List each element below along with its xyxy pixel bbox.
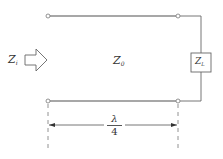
input-impedance-label: Zi: [8, 54, 18, 66]
load-impedance-label: ZL: [195, 57, 205, 67]
line-impedance-label: Z0: [113, 55, 124, 67]
quarter-wavelength-label: λ 4: [107, 114, 122, 137]
terminal-output-top: [176, 14, 180, 18]
wavelength-symbol: λ: [107, 114, 122, 126]
length-denominator: 4: [107, 126, 122, 137]
arrowhead-right-icon: [171, 123, 177, 127]
arrowhead-left-icon: [49, 123, 55, 127]
terminal-input-top: [46, 14, 50, 18]
terminal-output-bottom: [176, 99, 180, 103]
terminal-input-bottom: [46, 99, 50, 103]
input-arrow-icon: [25, 49, 47, 71]
